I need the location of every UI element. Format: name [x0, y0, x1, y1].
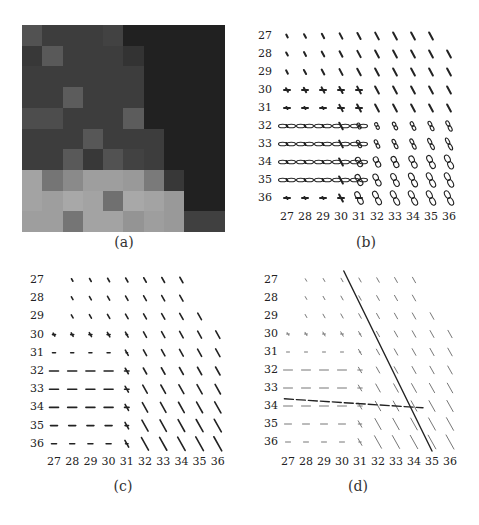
panel-d-orientation-ticks	[0, 0, 479, 525]
panel-d-caption: (d)	[338, 478, 378, 494]
